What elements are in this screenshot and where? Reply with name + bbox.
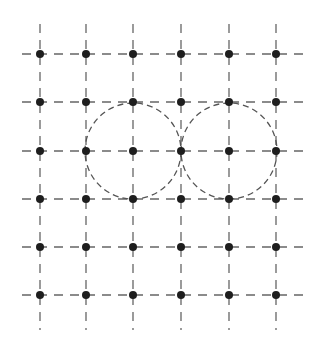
lattice-point — [225, 195, 233, 203]
lattice-point — [129, 243, 137, 251]
lattice-point — [82, 98, 90, 106]
lattice-point — [82, 291, 90, 299]
lattice-points — [36, 50, 280, 299]
lattice-point — [129, 98, 137, 106]
lattice-point — [36, 291, 44, 299]
lattice-diagram — [0, 0, 330, 358]
lattice-point — [36, 195, 44, 203]
lattice-point — [272, 243, 280, 251]
grid-lines — [22, 24, 305, 330]
lattice-point — [177, 243, 185, 251]
lattice-point — [36, 50, 44, 58]
lattice-point — [129, 291, 137, 299]
lattice-point — [129, 147, 137, 155]
lattice-point — [129, 195, 137, 203]
lattice-point — [36, 243, 44, 251]
lattice-point — [225, 98, 233, 106]
lattice-point — [225, 147, 233, 155]
lattice-point — [82, 243, 90, 251]
lattice-point — [177, 50, 185, 58]
lattice-point — [36, 98, 44, 106]
lattice-point — [272, 291, 280, 299]
lattice-point — [225, 243, 233, 251]
lattice-point — [82, 147, 90, 155]
lattice-point — [177, 147, 185, 155]
lattice-point — [272, 50, 280, 58]
lattice-point — [225, 50, 233, 58]
lattice-point — [272, 98, 280, 106]
lattice-point — [272, 147, 280, 155]
lattice-point — [177, 195, 185, 203]
lattice-point — [82, 50, 90, 58]
lattice-point — [272, 195, 280, 203]
lattice-point — [177, 98, 185, 106]
lattice-point — [177, 291, 185, 299]
lattice-point — [225, 291, 233, 299]
lattice-point — [129, 50, 137, 58]
lattice-point — [36, 147, 44, 155]
lattice-point — [82, 195, 90, 203]
